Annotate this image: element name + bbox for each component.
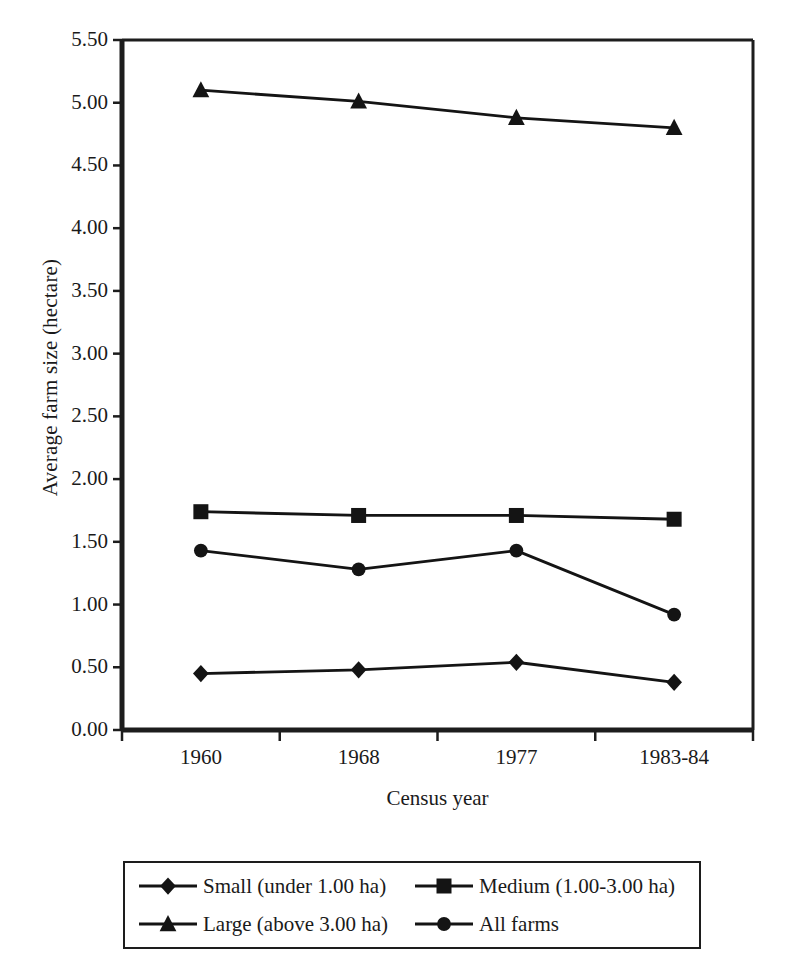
- data-point-marker: [193, 504, 208, 519]
- legend-label-all-farms: All farms: [475, 912, 559, 937]
- legend-key-glyph: [413, 911, 475, 937]
- x-axis-title: Census year: [122, 786, 753, 811]
- legend-entry-all-farms: All farms: [413, 907, 559, 941]
- data-point-marker: [351, 508, 366, 523]
- data-point-marker: [194, 544, 208, 558]
- data-point-marker: [352, 563, 366, 577]
- data-point-marker: [437, 879, 452, 894]
- legend-label-large: Large (above 3.00 ha): [199, 912, 388, 937]
- plot-area: [0, 0, 786, 974]
- legend-key-glyph: [137, 873, 199, 899]
- x-tick-label: 1968: [280, 747, 438, 768]
- data-point-marker: [509, 508, 524, 523]
- legend-label-medium: Medium (1.00-3.00 ha): [475, 874, 675, 899]
- legend-entry-small: Small (under 1.00 ha): [137, 869, 386, 903]
- diamond-marker-icon: [137, 873, 199, 899]
- chart-figure: Average farm size (hectare) 0.000.501.00…: [0, 0, 786, 974]
- legend-entry-large: Large (above 3.00 ha): [137, 907, 388, 941]
- data-point-marker: [667, 512, 682, 527]
- x-tick-label: 1960: [122, 747, 280, 768]
- plot-background: [122, 40, 753, 730]
- square-marker-icon: [413, 873, 475, 899]
- data-point-marker: [509, 544, 523, 558]
- legend-key-glyph: [137, 911, 199, 937]
- triangle-marker-icon: [137, 911, 199, 937]
- legend-label-small: Small (under 1.00 ha): [199, 874, 386, 899]
- data-point-marker: [160, 877, 176, 894]
- legend-key-glyph: [413, 873, 475, 899]
- x-tick-label: 1983-84: [595, 747, 753, 768]
- legend-entry-medium: Medium (1.00-3.00 ha): [413, 869, 675, 903]
- data-point-marker: [437, 917, 451, 931]
- chart-legend: Small (under 1.00 ha) Medium (1.00-3.00 …: [123, 861, 701, 949]
- x-tick-label: 1977: [438, 747, 596, 768]
- circle-marker-icon: [413, 911, 475, 937]
- data-point-marker: [667, 608, 681, 622]
